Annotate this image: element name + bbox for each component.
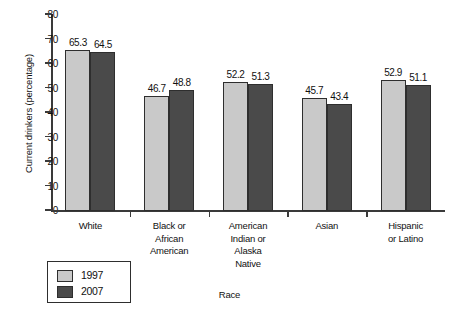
y-tick-mark (45, 13, 51, 15)
x-category-label: Black orAfricanAmerican (130, 220, 209, 258)
bar-value-label: 64.5 (87, 39, 119, 50)
y-tick-mark (45, 185, 51, 187)
y-tick-mark (45, 62, 51, 64)
legend-label: 1997 (81, 269, 103, 281)
x-tick-mark (366, 211, 368, 217)
x-category-label: White (51, 220, 130, 233)
y-tick-label: 10 (18, 181, 58, 191)
x-tick-mark (287, 211, 289, 217)
y-tick-label: 50 (18, 83, 58, 93)
bar-chart: Current drinkers (percentage) 0102030405… (0, 0, 459, 319)
bar-value-label: 43.4 (323, 91, 355, 102)
y-tick-mark (45, 87, 51, 89)
bar-1997-asian (302, 98, 327, 211)
y-tick-label: 40 (18, 107, 58, 117)
legend-label: 2007 (81, 285, 103, 297)
bar-2007-american-indian-or-alaska-native (248, 84, 273, 211)
y-tick-label: 80 (18, 9, 58, 19)
y-tick-mark (45, 160, 51, 162)
bar-value-label: 51.3 (245, 71, 277, 82)
bar-1997-white (65, 50, 90, 211)
legend-swatch-2007 (57, 286, 73, 298)
y-tick-label: 20 (18, 156, 58, 166)
y-tick-mark (45, 111, 51, 113)
y-tick-mark (45, 136, 51, 138)
y-tick-label: 60 (18, 58, 58, 68)
y-tick-label: 30 (18, 132, 58, 142)
legend: 19972007 (47, 261, 131, 303)
bar-1997-hispanic-or-latino (381, 80, 406, 211)
bar-1997-black-or-african-american (144, 96, 169, 211)
bar-2007-black-or-african-american (169, 90, 194, 211)
x-category-label: Hispanicor Latino (366, 220, 445, 245)
x-tick-mark (209, 211, 211, 217)
bar-value-label: 51.1 (402, 72, 434, 83)
x-category-label: Asian (287, 220, 366, 233)
x-tick-mark (130, 211, 132, 217)
bar-2007-asian (327, 104, 352, 211)
bar-2007-hispanic-or-latino (406, 85, 431, 211)
y-tick-label: 70 (18, 34, 58, 44)
bar-1997-american-indian-or-alaska-native (223, 82, 248, 211)
legend-swatch-1997 (57, 270, 73, 282)
y-tick-mark (45, 38, 51, 40)
x-category-label: AmericanIndian orAlaskaNative (209, 220, 288, 270)
bar-2007-white (90, 52, 115, 211)
page-edge-artifact (0, 312, 459, 319)
bar-value-label: 48.8 (166, 77, 198, 88)
